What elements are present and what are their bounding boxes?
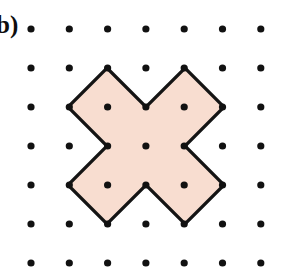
lattice-dot bbox=[181, 25, 188, 32]
lattice-dot bbox=[219, 181, 226, 188]
lattice-dot bbox=[104, 259, 111, 266]
lattice-dot bbox=[142, 181, 149, 188]
lattice-dot bbox=[181, 142, 188, 149]
lattice-dot bbox=[142, 220, 149, 227]
lattice-dot bbox=[104, 142, 111, 149]
lattice-dot bbox=[104, 103, 111, 110]
lattice-dot bbox=[181, 181, 188, 188]
lattice-dot bbox=[142, 259, 149, 266]
lattice-dot bbox=[142, 103, 149, 110]
lattice-dot bbox=[219, 142, 226, 149]
lattice-dot bbox=[181, 220, 188, 227]
lattice-dot bbox=[142, 25, 149, 32]
lattice-dot bbox=[27, 259, 34, 266]
lattice-dot bbox=[66, 220, 73, 227]
lattice-dot bbox=[66, 64, 73, 71]
lattice-dot bbox=[181, 64, 188, 71]
lattice-dot bbox=[181, 259, 188, 266]
lattice-dot bbox=[27, 181, 34, 188]
lattice-dot bbox=[219, 220, 226, 227]
lattice-dot-layer bbox=[27, 25, 264, 266]
lattice-dot bbox=[219, 25, 226, 32]
lattice-dot bbox=[219, 103, 226, 110]
lattice-dot bbox=[27, 64, 34, 71]
lattice-dot bbox=[257, 25, 264, 32]
lattice-dot bbox=[27, 25, 34, 32]
lattice-dot bbox=[181, 103, 188, 110]
lattice-dot bbox=[257, 64, 264, 71]
lattice-dot bbox=[66, 142, 73, 149]
lattice-dot bbox=[142, 142, 149, 149]
lattice-dot bbox=[104, 64, 111, 71]
lattice-dot bbox=[66, 181, 73, 188]
figure-canvas bbox=[0, 0, 281, 279]
lattice-dot bbox=[257, 220, 264, 227]
lattice-dot bbox=[142, 64, 149, 71]
lattice-dot bbox=[27, 220, 34, 227]
lattice-dot bbox=[104, 25, 111, 32]
lattice-dot bbox=[104, 181, 111, 188]
lattice-dot bbox=[219, 64, 226, 71]
lattice-dot bbox=[27, 103, 34, 110]
lattice-dot bbox=[66, 25, 73, 32]
lattice-dot bbox=[66, 259, 73, 266]
lattice-dot bbox=[66, 103, 73, 110]
geoboard-figure: b) bbox=[0, 0, 281, 279]
lattice-dot bbox=[257, 103, 264, 110]
lattice-dot bbox=[104, 220, 111, 227]
lattice-dot bbox=[27, 142, 34, 149]
lattice-dot bbox=[257, 181, 264, 188]
lattice-dot bbox=[219, 259, 226, 266]
lattice-dot bbox=[257, 142, 264, 149]
lattice-dot bbox=[257, 259, 264, 266]
